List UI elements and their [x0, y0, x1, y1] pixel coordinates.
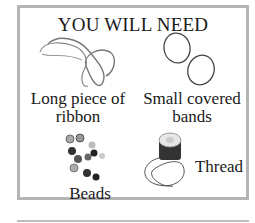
bands-icon: [155, 30, 225, 90]
materials-frame: YOU WILL NEED Long piece of ribbon Small…: [17, 5, 249, 200]
divider-line: [17, 220, 249, 222]
item-label-ribbon: Long piece of ribbon: [22, 90, 134, 126]
beads-icon: [62, 135, 122, 181]
thread-icon: [133, 132, 203, 196]
item-label-beads: Beads: [60, 185, 120, 203]
item-label-thread: Thread: [194, 158, 244, 176]
item-label-bands: Small covered bands: [138, 90, 246, 126]
ribbon-icon: [38, 30, 128, 90]
